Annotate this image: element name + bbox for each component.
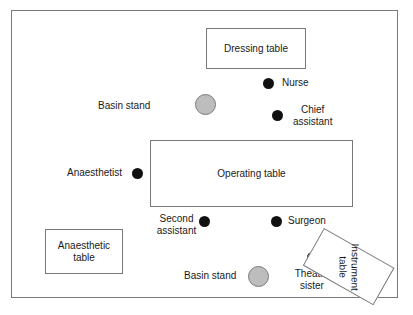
basin-stand-bottom-icon: [248, 266, 269, 287]
instrument-table-box: Instrument table: [303, 228, 395, 305]
second-assistant-label-line2: assistant: [154, 225, 199, 237]
anaesthetist-label: Anaesthetist: [67, 167, 122, 179]
second-assistant-marker-icon: [199, 216, 210, 227]
anaesthetic-table-box: Anaesthetic table: [45, 229, 123, 274]
theatre-room-boundary: Dressing table Nurse Chief assistant Bas…: [11, 10, 398, 298]
nurse-label: Nurse: [282, 77, 309, 89]
basin-stand-top-icon: [195, 94, 216, 115]
operating-table-box: Operating table: [150, 140, 353, 207]
instrument-table-label-line2: table: [336, 243, 348, 290]
basin-stand-bottom-label: Basin stand: [184, 270, 236, 282]
chief-assistant-label-line2: assistant: [293, 116, 332, 128]
surgeon-label: Surgeon: [288, 215, 326, 227]
operating-theatre-diagram: Dressing table Nurse Chief assistant Bas…: [0, 0, 413, 315]
operating-table-label: Operating table: [217, 168, 285, 180]
dressing-table-label: Dressing table: [224, 43, 288, 55]
anaesthetist-marker-icon: [132, 168, 143, 179]
basin-stand-top-label: Basin stand: [98, 100, 150, 112]
chief-assistant-label-line1: Chief: [293, 104, 332, 116]
chief-assistant-marker-icon: [272, 110, 283, 121]
nurse-marker-icon: [263, 78, 274, 89]
instrument-table-label-line1: Instrument: [348, 243, 360, 290]
anaesthetic-table-label-line1: Anaesthetic: [58, 240, 110, 252]
second-assistant-label: Second assistant: [154, 213, 199, 237]
anaesthetic-table-label-line2: table: [58, 252, 110, 264]
second-assistant-label-line1: Second: [154, 213, 199, 225]
instrument-table-label: Instrument table: [336, 243, 360, 290]
theatre-sister-label-line2: sister: [287, 280, 337, 292]
chief-assistant-label: Chief assistant: [293, 104, 332, 128]
dressing-table-box: Dressing table: [206, 28, 306, 69]
surgeon-marker-icon: [271, 216, 282, 227]
